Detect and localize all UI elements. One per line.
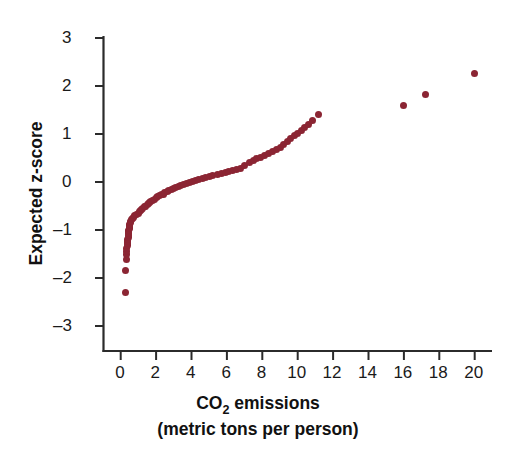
- scatter-point: [122, 289, 129, 296]
- scatter-point: [422, 91, 429, 98]
- chart-figure: 3 2 1 0 –1 –2 –3 0 2 4 6 8 10 12 14 16 1…: [0, 0, 516, 464]
- scatter-point: [122, 267, 129, 274]
- scatter-point: [400, 102, 407, 109]
- scatter-points-layer: [0, 0, 516, 464]
- scatter-point: [309, 117, 316, 124]
- scatter-point: [471, 70, 478, 77]
- scatter-point: [315, 111, 322, 118]
